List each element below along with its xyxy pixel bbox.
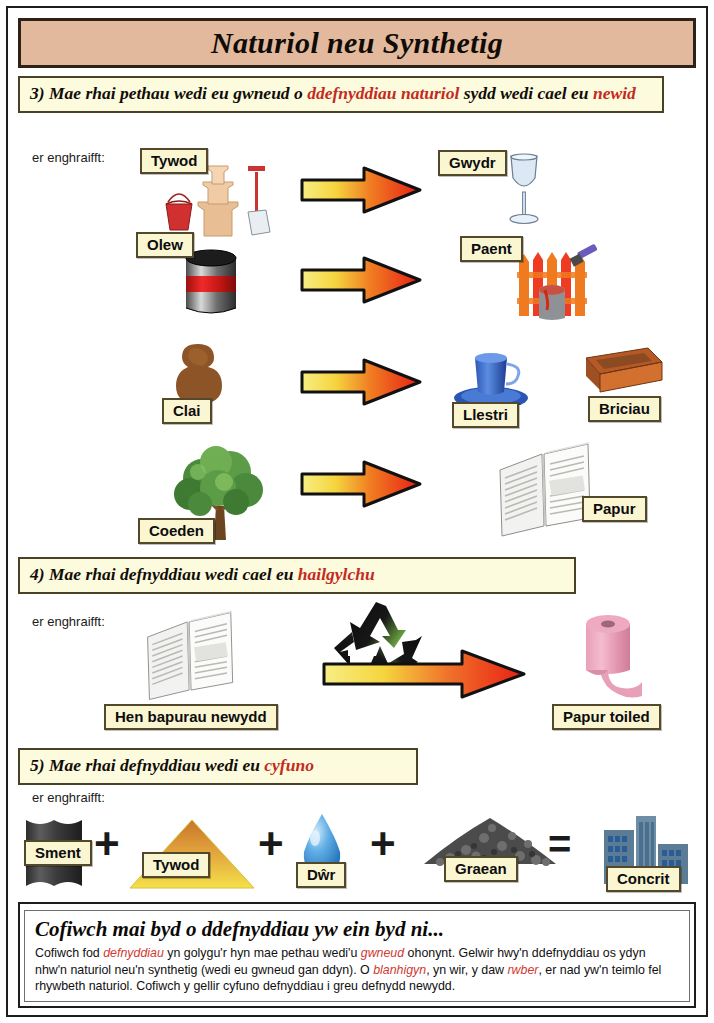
- section-5-heading-text: 5) Mae rhai defnyddiau wedi eu: [30, 755, 264, 775]
- label-gwydr: Gwydr: [438, 150, 507, 176]
- wine-glass-icon: [500, 152, 548, 228]
- label-coeden: Coeden: [138, 518, 215, 544]
- operator-plus-2: +: [258, 822, 284, 866]
- page-title: Naturiol neu Synthetig: [211, 26, 503, 60]
- transform-arrow-row3: [300, 358, 424, 406]
- label-graean: Graean: [444, 856, 518, 882]
- brick-icon: [570, 344, 666, 400]
- worksheet-page: Naturiol neu Synthetig 3) Mae rhai petha…: [0, 0, 714, 1023]
- transform-arrow-row4: [300, 460, 424, 508]
- section-4-heading-highlight: hailgylchu: [298, 564, 375, 584]
- newspaper-icon-section4: [140, 608, 244, 704]
- newspaper-icon-row4: [492, 440, 602, 540]
- operator-plus-3: +: [370, 822, 396, 866]
- section-4-heading: 4) Mae rhai defnyddiau wedi cael eu hail…: [18, 557, 576, 594]
- section-5-example-label: er enghraifft:: [32, 790, 105, 805]
- painted-fence-icon: [515, 242, 601, 324]
- label-papur-toiled: Papur toiled: [552, 704, 661, 730]
- operator-plus-1: +: [94, 822, 120, 866]
- section-3-example-label: er enghraifft:: [32, 150, 105, 165]
- toilet-roll-icon: [570, 608, 656, 704]
- section-4-example-label: er enghraifft:: [32, 614, 105, 629]
- summary-body: Cofiwch fod defnyddiau yn golygu'r hyn m…: [35, 945, 679, 995]
- label-tywod-2: Tywod: [142, 852, 210, 878]
- summary-text-1: Cofiwch fod: [35, 946, 103, 960]
- section-3-heading-highlight-a: ddefnyddiau naturiol: [307, 83, 459, 103]
- summary-em-rwber: rwber: [507, 963, 538, 977]
- summary-text-4: , yn wir, y daw: [426, 963, 507, 977]
- summary-box: Cofiwch mai byd o ddefnyddiau yw ein byd…: [18, 902, 696, 1008]
- summary-inner-border: Cofiwch mai byd o ddefnyddiau yw ein byd…: [24, 910, 690, 1002]
- label-briciau: Briciau: [588, 396, 661, 422]
- label-dwr: Dŵr: [296, 862, 346, 888]
- page-title-bar: Naturiol neu Synthetig: [18, 18, 696, 68]
- summary-text-2: yn golygu'r hyn mae pethau wedi'u: [164, 946, 361, 960]
- label-llestri: Llestri: [452, 402, 519, 428]
- recycle-arrow: [322, 648, 528, 700]
- summary-em-gwneud: gwneud: [361, 946, 404, 960]
- transform-arrow-row1: [300, 166, 424, 214]
- section-3-heading-text-a: 3) Mae rhai pethau wedi eu gwneud o: [30, 83, 307, 103]
- section-5-heading-highlight: cyfuno: [264, 755, 314, 775]
- label-concrit: Concrit: [606, 866, 681, 892]
- label-olew: Olew: [136, 232, 194, 258]
- label-hen-bapurau-newydd: Hen bapurau newydd: [104, 704, 278, 730]
- label-clai: Clai: [162, 398, 212, 424]
- section-3-heading-text-b: sydd wedi cael eu: [459, 83, 593, 103]
- summary-em-blanhigyn: blanhigyn: [373, 963, 426, 977]
- oil-barrel-icon: [180, 248, 242, 320]
- transform-arrow-row2: [300, 256, 424, 304]
- label-papur: Papur: [582, 496, 647, 522]
- summary-title: Cofiwch mai byd o ddefnyddiau yw ein byd…: [35, 917, 679, 942]
- label-paent: Paent: [460, 236, 523, 262]
- label-tywod: Tywod: [140, 148, 208, 174]
- summary-em-defnyddiau: defnyddiau: [103, 946, 164, 960]
- section-3-heading: 3) Mae rhai pethau wedi eu gwneud o ddef…: [18, 76, 664, 113]
- label-sment: Sment: [24, 840, 92, 866]
- section-4-heading-text: 4) Mae rhai defnyddiau wedi cael eu: [30, 564, 298, 584]
- operator-equals: =: [548, 824, 571, 864]
- section-3-heading-highlight-b: newid: [593, 83, 636, 103]
- section-5-heading: 5) Mae rhai defnyddiau wedi eu cyfuno: [18, 748, 418, 785]
